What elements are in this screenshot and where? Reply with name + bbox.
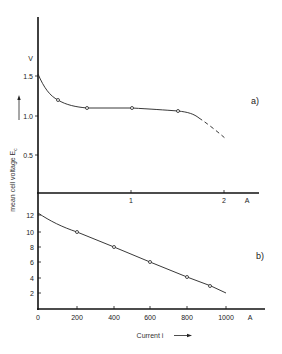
panel-b-label: b): [256, 251, 264, 261]
y-axis-label-subscript: c: [12, 148, 18, 151]
panel-a-curve-dashed: [199, 118, 226, 139]
panel-b-xtick: 600: [144, 314, 156, 321]
figure-canvas: V 1.5 1.0 0.5 1 2 A a) 12 10 8 6 4 2 0: [0, 0, 282, 354]
panel-a-markers: [57, 99, 180, 113]
svg-text:mean cell voltage Ec: mean cell voltage Ec: [9, 148, 18, 212]
panel-b-xtick: 400: [108, 314, 120, 321]
panel-b-ytick: 8: [30, 244, 34, 251]
panel-b-x-unit: A: [248, 314, 253, 321]
panel-a-xtick: 2: [222, 197, 226, 204]
panel-b-xtick: 800: [181, 314, 193, 321]
panel-a-ytick: 0.5: [23, 152, 33, 159]
y-axis-arrow-icon: [17, 95, 20, 120]
panel-b-xtick: 200: [71, 314, 83, 321]
y-axis-label: mean cell voltage Ec: [9, 148, 18, 212]
panel-b-ytick: 2: [30, 290, 34, 297]
x-axis-arrow-icon: [174, 334, 192, 337]
panel-a-xtick: 1: [129, 197, 133, 204]
panel-a-y-unit: V: [28, 55, 33, 62]
panel-b-ytick: 12: [26, 212, 34, 219]
panel-a-label: a): [251, 96, 259, 106]
panel-a-curve-solid: [38, 74, 199, 118]
panel-b-xtick: 1000: [218, 314, 234, 321]
y-axis-label-text: mean cell voltage E: [9, 150, 17, 211]
panel-b-xtick: 0: [36, 314, 40, 321]
panel-b-ytick: 10: [26, 229, 34, 236]
x-axis-label: Current i: [137, 332, 164, 339]
panel-a-ytick: 1.5: [23, 73, 33, 80]
panel-b-ytick: 4: [30, 275, 34, 282]
panel-b-line: [38, 213, 226, 293]
panel-a-ytick: 1.0: [23, 113, 33, 120]
panel-b-ytick: 6: [30, 259, 34, 266]
panel-a-x-unit: A: [245, 197, 250, 204]
